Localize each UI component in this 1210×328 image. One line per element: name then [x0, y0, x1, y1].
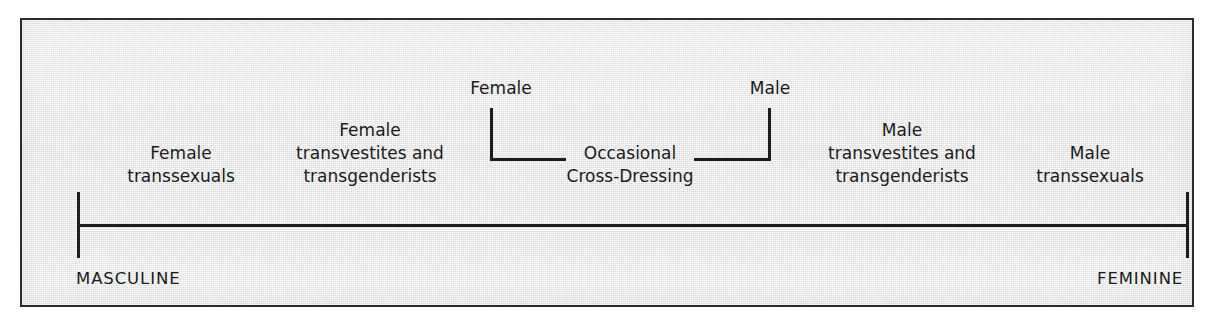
- callout-bracket-male-horizontal: [694, 158, 771, 161]
- category-line: transgenderists: [828, 165, 976, 188]
- category-line: transvestites and: [828, 142, 976, 165]
- category-female-transvestites-and-transgenderists: Female transvestites and transgenderists: [296, 119, 444, 188]
- category-male-transsexuals: Male transsexuals: [1036, 142, 1144, 188]
- callout-bracket-female-vertical: [490, 108, 493, 161]
- category-line: transgenderists: [296, 165, 444, 188]
- category-line: Male: [828, 119, 976, 142]
- callout-bracket-male-vertical: [768, 108, 771, 161]
- category-line: Occasional: [567, 142, 694, 165]
- category-line: Female: [127, 142, 235, 165]
- category-line: transsexuals: [1036, 165, 1144, 188]
- callout-label-female: Female: [470, 78, 531, 98]
- category-line: transsexuals: [127, 165, 235, 188]
- axis-end-cap-right: [1186, 192, 1189, 258]
- axis-end-cap-left: [77, 192, 80, 258]
- pole-label-feminine: FEMININE: [1097, 269, 1183, 288]
- category-line: Cross-Dressing: [567, 165, 694, 188]
- category-line: Female: [296, 119, 444, 142]
- category-occasional-cross-dressing: Occasional Cross-Dressing: [567, 142, 694, 188]
- category-line: Male: [1036, 142, 1144, 165]
- callout-bracket-female-horizontal: [490, 158, 566, 161]
- pole-label-masculine: MASCULINE: [76, 269, 181, 288]
- category-female-transsexuals: Female transsexuals: [127, 142, 235, 188]
- continuum-axis-line: [78, 224, 1188, 227]
- category-line: transvestites and: [296, 142, 444, 165]
- category-male-transvestites-and-transgenderists: Male transvestites and transgenderists: [828, 119, 976, 188]
- gender-continuum-figure: MASCULINE FEMININE Female transsexuals F…: [0, 0, 1210, 328]
- callout-label-male: Male: [750, 78, 790, 98]
- figure-plate: MASCULINE FEMININE Female transsexuals F…: [20, 18, 1194, 307]
